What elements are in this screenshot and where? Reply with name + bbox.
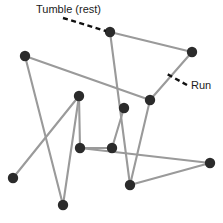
- run-segment-12: [130, 163, 210, 185]
- tumble-point-2: [187, 47, 197, 57]
- tumble-point-7: [75, 143, 85, 153]
- annotation-tumble: Tumble (rest): [36, 3, 106, 31]
- run-leader-line: [167, 74, 187, 85]
- annotations-group: Tumble (rest)Run: [36, 3, 211, 91]
- run-segment-11: [130, 100, 150, 185]
- tumble-point-11: [125, 180, 135, 190]
- tumble-point-3: [145, 95, 155, 105]
- run-segment-3: [25, 56, 150, 100]
- tumble-point-8: [107, 143, 117, 153]
- tumble-points-group: [8, 27, 215, 210]
- tumble-point-4: [119, 103, 129, 113]
- tumble-label: Tumble (rest): [36, 3, 101, 15]
- run-segment-13: [80, 148, 210, 163]
- run-segment-7: [79, 96, 80, 148]
- tumble-point-1: [105, 27, 115, 37]
- tumble-point-10: [58, 200, 68, 210]
- tumble-point-6: [74, 91, 84, 101]
- trajectory-diagram: Tumble (rest)Run: [0, 0, 223, 223]
- tumble-point-12: [205, 158, 215, 168]
- run-segment-4: [25, 56, 63, 205]
- tumble-point-5: [20, 51, 30, 61]
- run-label: Run: [191, 79, 211, 91]
- run-segments-group: [13, 32, 210, 205]
- run-and-tumble-figure: Tumble (rest)Run: [0, 0, 223, 223]
- tumble-leader-line: [63, 18, 106, 31]
- run-segment-1: [110, 32, 192, 52]
- annotation-run: Run: [167, 74, 211, 91]
- tumble-point-9: [8, 173, 18, 183]
